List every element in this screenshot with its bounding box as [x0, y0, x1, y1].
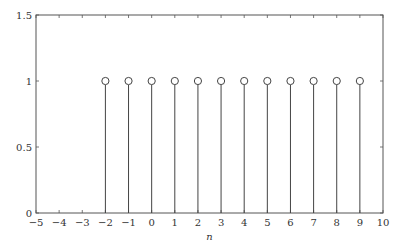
stem-marker: [356, 77, 363, 84]
stem-marker: [194, 77, 201, 84]
x-tick-label: 2: [195, 217, 201, 228]
x-axis-label: n: [206, 231, 212, 242]
stem-plot: −5−4−3−2−101234567891000.511.5n: [0, 0, 404, 247]
x-tick-label: 4: [241, 217, 247, 228]
x-tick-label: 9: [357, 217, 363, 228]
x-tick-label: 0: [148, 217, 154, 228]
plot-frame: [36, 15, 383, 213]
x-tick-label: 5: [264, 217, 270, 228]
y-tick-label: 1.5: [16, 10, 32, 21]
x-tick-label: 3: [218, 217, 224, 228]
y-tick-label: 0: [26, 208, 32, 219]
x-tick-label: 7: [310, 217, 316, 228]
x-tick-label: −2: [98, 217, 113, 228]
x-tick-label: −1: [121, 217, 136, 228]
stem-marker: [125, 77, 132, 84]
stem-marker: [287, 77, 294, 84]
x-tick-label: 10: [377, 217, 390, 228]
x-tick-label: 1: [172, 217, 178, 228]
y-tick-label: 1: [26, 76, 32, 87]
y-tick-label: 0.5: [16, 142, 32, 153]
stem-marker: [264, 77, 271, 84]
x-tick-label: −3: [75, 217, 90, 228]
stem-marker: [241, 77, 248, 84]
stem-marker: [310, 77, 317, 84]
stem-marker: [171, 77, 178, 84]
stem-marker: [217, 77, 224, 84]
x-tick-label: 6: [287, 217, 293, 228]
x-tick-label: −4: [52, 217, 67, 228]
stem-marker: [102, 77, 109, 84]
x-tick-label: 8: [334, 217, 340, 228]
stem-marker: [333, 77, 340, 84]
stem-marker: [148, 77, 155, 84]
